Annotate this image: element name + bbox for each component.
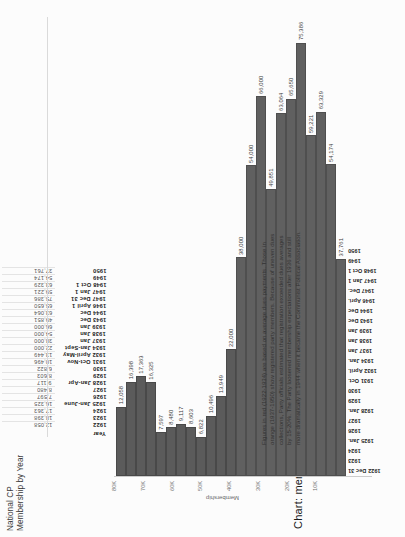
bar-value-label: 54,174	[328, 144, 334, 162]
bar-row[interactable]: 38,000	[236, 237, 246, 476]
y-axis-tick-label: 80K	[111, 481, 117, 491]
bar[interactable]	[236, 258, 246, 477]
table-year-cell: 1938 Jan	[55, 331, 108, 338]
bar-row[interactable]: 37,761	[336, 238, 346, 476]
bar-value-label: 12,058	[118, 386, 124, 404]
table-year-cell: 1925 Jan-June	[55, 401, 108, 408]
table-header-year: Year	[55, 428, 108, 437]
x-axis-tick-label: 1948 Oct 1	[348, 268, 377, 274]
bar-row[interactable]: 16,325	[146, 361, 156, 476]
x-axis-tick-label: 1939 Jan	[348, 328, 372, 334]
x-axis-tick-label: 1923	[348, 458, 361, 464]
bar-value-label: 8,603	[188, 409, 194, 424]
bar[interactable]	[336, 259, 346, 476]
table-year-cell: 1950	[55, 268, 108, 275]
bar-row[interactable]: 13,949	[216, 375, 226, 476]
bar-value-label: 7,597	[158, 415, 164, 430]
table-divider	[47, 17, 48, 437]
x-axis-tick-label: 1927	[348, 418, 361, 424]
document-page: National CP Membership by Year 12,05818,…	[0, 0, 405, 537]
bar-row[interactable]: 12,058	[116, 386, 126, 476]
x-axis-tick-label: 1938 Jan	[348, 338, 372, 344]
bar[interactable]	[116, 407, 126, 476]
bar-row[interactable]: 16,398	[126, 361, 136, 476]
x-axis-tick-label: 1946 Apri.	[348, 298, 375, 304]
bar[interactable]	[166, 427, 176, 476]
table-year-cell: 1922	[55, 422, 108, 429]
bar-row[interactable]: 8,480	[166, 410, 176, 476]
membership-table-block: National CP Membership by Year 12,05818,…	[0, 0, 108, 537]
bar[interactable]	[196, 437, 206, 476]
table-year-cell: 1949	[55, 275, 108, 282]
bar-value-label: 6,822	[198, 419, 204, 434]
bar[interactable]	[186, 427, 196, 476]
bar[interactable]	[176, 424, 186, 476]
bar-value-label: 66,000	[258, 76, 264, 94]
bar-value-label: 63,329	[318, 91, 324, 109]
table-year-cell: 1924	[55, 408, 108, 415]
y-axis-tick-label: 30K	[255, 481, 261, 491]
x-axis-categories: 1922 Dec 31192319241925 Jan.192619271928…	[348, 16, 400, 476]
bar-row[interactable]: 63,329	[316, 91, 326, 476]
table-year-cell: 1948 Oct 1	[55, 282, 108, 289]
x-axis-tick-label: 1922 Dec 31	[348, 468, 381, 474]
bar-value-label: 37,761	[338, 238, 344, 256]
bar-value-label: 63,064	[278, 93, 284, 111]
bar-value-label: 9,117	[178, 407, 184, 422]
bar-row[interactable]: 54,174	[326, 144, 336, 476]
bar-row[interactable]: 8,603	[186, 409, 196, 476]
y-axis-tick-label: 70K	[140, 481, 146, 491]
bar-row[interactable]: 22,000	[226, 329, 236, 476]
x-axis-tick-label: 1950	[348, 248, 361, 254]
table-year-cell: 1931 Oct-Nov	[55, 359, 108, 366]
bar[interactable]	[226, 350, 236, 477]
table-year-cell: 1930	[55, 366, 108, 373]
x-axis-tick-label: 1928 Jan.	[348, 408, 374, 414]
bar-value-label: 59,221	[308, 115, 314, 133]
rotated-page-wrapper: National CP Membership by Year 12,05818,…	[0, 0, 405, 537]
chart-annotation: Figures in red (1922-1934) are based on …	[260, 230, 302, 445]
bar[interactable]	[246, 166, 256, 477]
bar-row[interactable]: 9,117	[176, 407, 186, 477]
bar-value-label: 16,325	[148, 361, 154, 379]
x-axis-tick-label: 1926	[348, 428, 361, 434]
table-title: National CP Membership by Year	[6, 445, 26, 531]
bar-row[interactable]: 17,363	[136, 355, 146, 476]
bar-value-label: 16,398	[128, 361, 134, 379]
bar[interactable]	[206, 416, 216, 476]
bar-row[interactable]: 7,597	[156, 415, 166, 476]
table-years-row: Year1922192319241925 Jan-June19261927192…	[55, 268, 108, 438]
table-year-cell: 1934 Jan-Sept	[55, 345, 108, 352]
bar[interactable]	[306, 135, 316, 476]
y-axis-tick-label: 50K	[197, 481, 203, 491]
bar[interactable]	[146, 382, 156, 476]
table-year-cell: 1947 Jan 1	[55, 289, 108, 296]
bar[interactable]	[156, 432, 166, 476]
bar-row[interactable]: 59,221	[306, 115, 316, 476]
bar-row[interactable]: 54,000	[246, 145, 256, 476]
x-axis-tick-label: 1949	[348, 258, 361, 264]
bar-value-label: 10,496	[208, 395, 214, 413]
bar-row[interactable]: 6,822	[196, 419, 206, 476]
bar[interactable]	[126, 382, 136, 476]
table-year-cell: 1923	[55, 415, 108, 422]
membership-table: 12,05818,39817,36316,3257,5978,4809,1178…	[2, 267, 108, 437]
x-axis-tick-label: 1944 Dec	[348, 308, 373, 314]
bar-value-label: 65,650	[288, 78, 294, 96]
bar-row[interactable]: 10,496	[206, 395, 216, 476]
x-axis-tick-label: 1947 Jan 1	[348, 278, 377, 284]
bar[interactable]	[136, 376, 146, 476]
x-axis-tick-label: 1925 Jan.	[348, 438, 374, 444]
y-axis-tick-label: 40K	[226, 481, 232, 491]
bar[interactable]	[326, 165, 336, 477]
bar-value-label: 54,000	[248, 145, 254, 163]
table-year-cell: 1932 April-May	[55, 352, 108, 359]
y-axis-label: Membership	[206, 495, 239, 501]
table-year-cell: 1928 Jan-Apr	[55, 380, 108, 387]
bar-value-label: 22,000	[228, 329, 234, 347]
bar[interactable]	[216, 396, 226, 476]
bar[interactable]	[316, 112, 326, 476]
membership-chart-block: Chart: membership by year Membership 80K…	[110, 0, 405, 537]
table-year-cell: 1929	[55, 373, 108, 380]
x-axis-tick-label: 1934 Jan.	[348, 358, 374, 364]
